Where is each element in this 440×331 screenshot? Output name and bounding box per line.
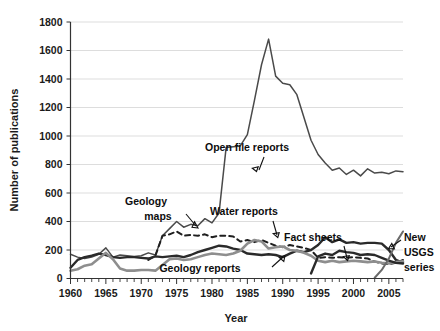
x-axis-ticks [71,279,404,285]
x-tick-label-1980: 1980 [200,287,224,299]
annotation-open-file-reports: Open file reports [205,141,289,153]
x-tick-label-1965: 1965 [94,287,118,299]
y-tick-label-1400: 1400 [39,73,63,85]
y-tick-label-1000: 1000 [39,130,63,142]
series-line-new-usgs-series [375,231,403,277]
y-tick-label-1600: 1600 [39,44,63,56]
publications-line-chart: 020040060080010001200140016001800 196019… [0,0,440,331]
annotation-geology-maps-line2: maps [144,210,172,222]
x-tick-label-1975: 1975 [165,287,189,299]
y-tick-label-200: 200 [45,244,63,256]
y-tick-label-1200: 1200 [39,101,63,113]
x-tick-label-2000: 2000 [342,287,366,299]
y-tick-label-1800: 1800 [39,16,63,28]
x-axis-tick-labels: 1960196519701975198019851990199520002005 [59,287,401,299]
y-tick-label-0: 0 [57,272,63,284]
series-annotations: Open file reportsGeologymapsWater report… [125,141,435,274]
annotation-new-usgs-line1: New [404,231,426,243]
leader-geology-reports [272,257,283,267]
x-tick-label-1960: 1960 [59,287,83,299]
annotation-new-usgs-line2: USGS [404,246,434,258]
x-tick-label-1995: 1995 [306,287,330,299]
series-lines [71,39,404,278]
x-axis-title: Year [224,312,248,324]
x-tick-label-2005: 2005 [377,287,401,299]
leader-open-file-reports [259,157,264,170]
annotation-new-usgs-line3: series [404,261,435,273]
y-axis-tick-labels: 020040060080010001200140016001800 [39,16,63,285]
chart-canvas: 020040060080010001200140016001800 196019… [0,0,440,331]
x-tick-label-1990: 1990 [271,287,295,299]
y-tick-label-400: 400 [45,215,63,227]
y-tick-label-600: 600 [45,187,63,199]
arrowhead-open-file-reports [252,167,258,172]
x-tick-label-1970: 1970 [130,287,154,299]
arrowhead-water-reports [273,233,279,238]
annotation-water-reports: Water reports [210,205,278,217]
annotation-fact-sheets: Fact sheets [284,231,342,243]
annotation-geology-maps-line1: Geology [125,195,167,207]
annotation-geology-reports: Geology reports [159,262,240,274]
y-tick-label-800: 800 [45,158,63,170]
x-tick-label-1985: 1985 [236,287,260,299]
y-axis-title: Number of publications [8,89,20,212]
